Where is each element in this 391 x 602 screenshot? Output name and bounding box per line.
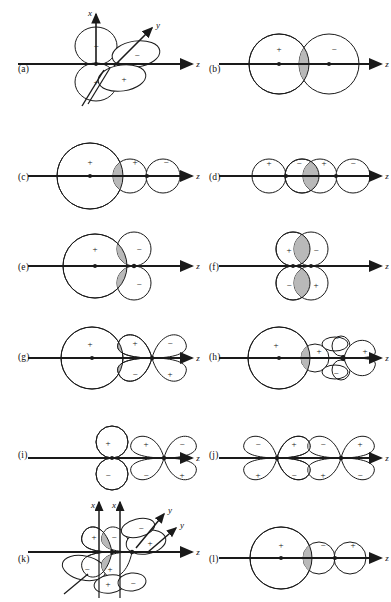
- sign-label: −: [136, 244, 141, 254]
- panel-label-k: (k): [18, 554, 30, 564]
- sign-label: −: [291, 470, 296, 480]
- panel-f: + − − + z: [231, 222, 389, 308]
- sign-label: +: [278, 540, 283, 550]
- panel-label-j: (j): [209, 450, 219, 460]
- axis-label-z: z: [384, 553, 389, 563]
- axis-label-y: y: [155, 20, 160, 30]
- sign-label: −: [138, 523, 143, 533]
- panel-label-b: (b): [209, 64, 221, 74]
- sign-label: +: [321, 158, 326, 168]
- panel-label-e: (e): [18, 262, 29, 272]
- axis-label-z: z: [384, 453, 389, 463]
- panel-l: + − + z: [231, 516, 389, 600]
- sign-label: +: [291, 439, 296, 449]
- sign-label: −: [320, 439, 325, 449]
- sign-label: −: [167, 338, 172, 348]
- sign-label: +: [132, 338, 137, 348]
- sign-label: +: [143, 439, 148, 449]
- panel-label-a: (a): [18, 64, 29, 74]
- panel-e: + − − z: [40, 222, 200, 308]
- sign-label: −: [163, 157, 168, 167]
- sign-label: −: [93, 41, 98, 51]
- panel-g: + + − − + z: [40, 312, 200, 404]
- sign-label: −: [132, 369, 137, 379]
- axis-label-z: z: [195, 547, 200, 557]
- sign-label: −: [179, 439, 184, 449]
- axis-label-z: z: [384, 261, 389, 271]
- sign-label: −: [136, 279, 141, 289]
- sign-label: +: [93, 77, 98, 87]
- sign-label: −: [313, 245, 318, 255]
- panel-label-h: (h): [209, 352, 221, 362]
- sign-label: −: [255, 439, 260, 449]
- sign-label: +: [276, 44, 281, 54]
- sign-label: +: [92, 244, 97, 254]
- sign-label: −: [357, 470, 362, 480]
- sign-label: −: [111, 532, 116, 542]
- sign-label: +: [320, 470, 325, 480]
- sign-label: −: [296, 158, 301, 168]
- sign-label: −: [333, 333, 338, 343]
- panel-label-d: (d): [209, 172, 221, 182]
- panel-k: + − − + − + + − x x y y z: [40, 500, 200, 602]
- axis-label-z: z: [195, 353, 200, 363]
- sign-label: +: [255, 470, 260, 480]
- panel-a: − + − + x y z: [40, 8, 200, 120]
- panel-b: + − z: [231, 18, 389, 110]
- sign-label: +: [87, 157, 92, 167]
- axis-label-z: z: [384, 59, 389, 69]
- axis-label-x: x: [87, 8, 92, 18]
- axis-label-z: z: [195, 261, 200, 271]
- sign-label: +: [362, 346, 367, 356]
- axis-label-z: z: [195, 453, 200, 463]
- sign-label: +: [147, 538, 152, 548]
- sign-label: +: [107, 564, 112, 574]
- sign-label: −: [331, 44, 336, 54]
- sign-label: +: [179, 470, 184, 480]
- panel-label-i: (i): [18, 450, 28, 460]
- sign-label: +: [316, 346, 321, 356]
- panel-label-f: (f): [209, 262, 219, 272]
- sign-label: −: [350, 158, 355, 168]
- panel-c: + + − z: [40, 130, 200, 218]
- sign-label: −: [134, 50, 139, 60]
- axis-label-z: z: [384, 353, 389, 363]
- sign-label: +: [266, 158, 271, 168]
- panel-label-l: (l): [209, 554, 219, 564]
- panel-label-g: (g): [18, 352, 30, 362]
- sign-label: +: [286, 245, 291, 255]
- figure-sheet: (a) − +: [0, 0, 391, 602]
- sign-label: +: [313, 280, 318, 290]
- sign-label: +: [91, 532, 96, 542]
- sign-label: −: [105, 470, 110, 480]
- axis-label-x: x: [90, 500, 95, 510]
- sign-label: −: [84, 564, 89, 574]
- sign-label: +: [121, 74, 126, 84]
- sign-label: +: [132, 157, 137, 167]
- sign-label: −: [333, 368, 338, 378]
- axis-label-z: z: [195, 59, 200, 69]
- sign-label: −: [143, 470, 148, 480]
- sign-label: +: [350, 540, 355, 550]
- axis-label-z: z: [384, 171, 389, 181]
- panel-h: + + − − + z: [231, 312, 389, 404]
- sign-label: +: [357, 439, 362, 449]
- panel-i: + − + − − + z: [40, 416, 200, 496]
- panel-label-c: (c): [18, 172, 29, 182]
- sign-label: +: [105, 438, 110, 448]
- sign-label: −: [320, 540, 325, 550]
- axis-label-x: x: [111, 500, 116, 510]
- sign-label: +: [105, 579, 110, 589]
- sign-label: −: [286, 280, 291, 290]
- panel-j: − + + − − + + − z: [231, 416, 389, 496]
- axis-label-z: z: [195, 171, 200, 181]
- panel-d: + − + − z: [231, 136, 389, 212]
- sign-label: +: [167, 369, 172, 379]
- sign-label: −: [130, 578, 135, 588]
- sign-label: +: [87, 339, 92, 349]
- sign-label: +: [273, 340, 278, 350]
- axis-label-y: y: [179, 520, 184, 530]
- axis-label-y: y: [167, 505, 172, 515]
